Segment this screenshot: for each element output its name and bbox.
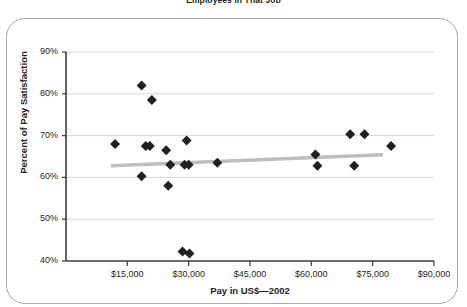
y-axis-tick-label: 90% [24, 46, 58, 56]
x-axis-tick-label: $90,000 [402, 269, 466, 279]
data-point-marker [110, 139, 120, 149]
data-point-marker [386, 141, 396, 151]
data-point-marker [137, 171, 147, 181]
data-point-marker [161, 145, 171, 155]
data-point-marker [212, 158, 222, 168]
plot-area [0, 0, 467, 307]
plot-svg [0, 0, 467, 307]
data-point-marker [137, 80, 147, 90]
x-axis-title: Pay in US$—2002 [66, 285, 434, 296]
x-axis-tick-label: $15,000 [95, 269, 159, 279]
y-axis-tick-label: 60% [24, 171, 58, 181]
x-axis-tick-label: $45,000 [218, 269, 282, 279]
data-point-marker [349, 161, 359, 171]
y-axis-tick-label: 50% [24, 213, 58, 223]
x-axis-tick-label: $30,000 [157, 269, 221, 279]
scatter-plot-figure: Employees in That Job Percent of Pay Sat… [0, 0, 467, 307]
data-point-marker [147, 95, 157, 105]
data-point-marker [312, 161, 322, 171]
x-axis-tick-label: $60,000 [279, 269, 343, 279]
data-point-marker [359, 129, 369, 139]
y-axis-tick-label: 80% [24, 88, 58, 98]
x-axis-tick-label: $75,000 [341, 269, 405, 279]
data-point-marker [163, 181, 173, 191]
data-point-marker [165, 160, 175, 170]
y-axis-tick-label: 70% [24, 130, 58, 140]
data-point-marker [345, 129, 355, 139]
y-axis-tick-label: 40% [24, 255, 58, 265]
trend-line [111, 155, 383, 166]
data-point-marker [182, 136, 192, 146]
